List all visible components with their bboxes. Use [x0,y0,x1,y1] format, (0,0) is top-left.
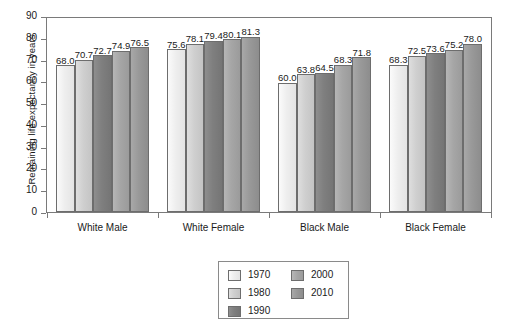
legend-column-left: 197019801990 [228,267,270,321]
chart-legend: 197019801990 20002010 [218,261,349,319]
legend-swatch [228,288,241,299]
x-axis-label: Black Female [380,222,491,233]
bar-slot: 70.7 [75,18,94,212]
y-axis-ticks: 9080706050403020100 [0,17,46,213]
x-axis-label: Black Male [269,222,380,233]
x-axis-labels: White MaleWhite FemaleBlack MaleBlack Fe… [47,222,491,233]
y-tick-label: 0 [3,206,37,217]
bar-value-label: 60.0 [278,73,297,83]
legend-column-right: 20002010 [291,267,333,303]
bar-slot: 78.1 [186,18,205,212]
legend-item[interactable]: 1970 [228,267,270,283]
x-axis-group-tick [269,213,270,218]
bar-slot: 71.8 [352,18,371,212]
bar-groups: 68.070.772.774.976.575.678.179.480.181.3… [47,18,491,212]
legend-swatch [228,270,241,281]
bar-value-label: 80.1 [223,30,242,40]
bar-slot: 72.7 [93,18,112,212]
bar-slot: 73.6 [426,18,445,212]
bar[interactable]: 75.2 [445,50,464,212]
bar[interactable]: 73.6 [426,53,445,212]
bar-value-label: 79.4 [204,31,223,41]
x-axis-group-tick [158,213,159,218]
bar-slot: 75.6 [167,18,186,212]
bar-slot: 74.9 [112,18,131,212]
x-axis-group-tick [380,213,381,218]
y-tick-label: 70 [3,54,37,65]
bar-slot: 72.5 [408,18,427,212]
y-tick-label: 20 [3,162,37,173]
bar-slot: 81.3 [241,18,260,212]
bar-group: 75.678.179.480.181.3 [158,18,269,212]
bar-slot: 68.0 [56,18,75,212]
bar[interactable]: 68.3 [334,65,353,212]
bar[interactable]: 70.7 [75,60,94,212]
legend-item[interactable]: 1990 [228,303,270,319]
legend-swatch [228,306,241,317]
y-tick-label: 50 [3,97,37,108]
legend-label: 1980 [248,288,270,298]
y-tick-label: 90 [3,10,37,21]
legend-swatch [291,288,304,299]
y-tick-label: 40 [3,119,37,130]
legend-item[interactable]: 2000 [291,267,333,283]
bar-group: 60.063.864.568.371.8 [269,18,380,212]
legend-item[interactable]: 2010 [291,285,333,301]
bar[interactable]: 68.0 [56,65,75,212]
x-axis-group-tick [47,213,48,218]
bar-slot: 68.3 [389,18,408,212]
bar-value-label: 68.3 [389,55,408,65]
y-tick-label: 10 [3,184,37,195]
bar-slot: 63.8 [297,18,316,212]
bar-slot: 64.5 [315,18,334,212]
x-axis-label: White Male [47,222,158,233]
bar[interactable]: 71.8 [352,57,371,212]
bar-slot: 79.4 [204,18,223,212]
bar-slot: 80.1 [223,18,242,212]
bar-value-label: 72.7 [93,46,112,56]
legend-swatch [291,270,304,281]
y-tick-label: 30 [3,141,37,152]
bar[interactable]: 78.0 [463,44,482,212]
bar-value-label: 75.2 [445,40,464,50]
y-tick-label: 60 [3,75,37,86]
bar-group: 68.372.573.675.278.0 [380,18,491,212]
bar-value-label: 78.0 [463,34,482,44]
bar-slot: 60.0 [278,18,297,212]
bar-value-label: 64.5 [315,63,334,73]
y-tick-label: 80 [3,32,37,43]
bar-value-label: 81.3 [241,27,260,37]
bar[interactable]: 75.6 [167,49,186,212]
y-tick-mark [41,213,46,214]
bar-slot: 76.5 [130,18,149,212]
bar[interactable]: 64.5 [315,73,334,212]
bar[interactable]: 63.8 [297,74,316,212]
bar[interactable]: 74.9 [112,51,131,212]
bar[interactable]: 81.3 [241,37,260,212]
x-axis-label: White Female [158,222,269,233]
bar-value-label: 73.6 [426,44,445,54]
bar[interactable]: 80.1 [223,39,242,212]
bar-value-label: 75.6 [167,40,186,50]
legend-label: 2000 [311,270,333,280]
bar-group: 68.070.772.774.976.5 [47,18,158,212]
bar-value-label: 70.7 [75,50,94,60]
bar-value-label: 74.9 [112,41,131,51]
bar[interactable]: 72.7 [93,55,112,212]
legend-label: 1990 [248,306,270,316]
bar[interactable]: 76.5 [130,47,149,212]
bar-value-label: 76.5 [130,38,149,48]
bar-group-bars: 68.070.772.774.976.5 [47,18,158,212]
bar[interactable]: 79.4 [204,41,223,212]
bar[interactable]: 72.5 [408,56,427,212]
bar-group-bars: 68.372.573.675.278.0 [380,18,491,212]
bar-value-label: 71.8 [352,48,371,58]
legend-item[interactable]: 1980 [228,285,270,301]
bar[interactable]: 60.0 [278,83,297,212]
bar[interactable]: 68.3 [389,65,408,212]
x-axis-group-tick [491,213,492,218]
bar-value-label: 78.1 [186,34,205,44]
bar[interactable]: 78.1 [186,44,205,212]
legend-label: 2010 [311,288,333,298]
bar-value-label: 68.3 [334,55,353,65]
